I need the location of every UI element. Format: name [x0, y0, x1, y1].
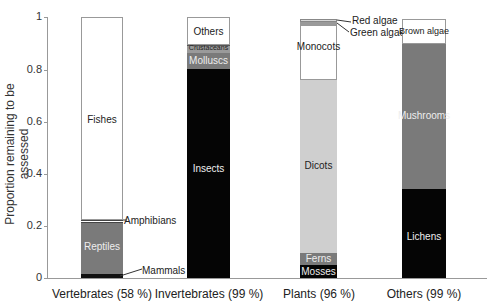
segment-fishes: Fishes — [81, 17, 123, 220]
label-insects: Insects — [177, 163, 240, 174]
bar-invertebrates: Others Crustaceans Molluscs Insects — [187, 17, 230, 278]
label-others: Others — [178, 26, 239, 37]
label-ferns: Ferns — [290, 253, 347, 264]
segment-crustaceans: Crustaceans — [187, 45, 230, 53]
category-invertebrates: Invertebrates (99 %) — [149, 287, 269, 301]
y-tick-mark — [44, 17, 48, 18]
label-fishes: Fishes — [72, 114, 132, 125]
segment-others: Others — [187, 17, 230, 45]
y-tick-mark — [44, 174, 48, 175]
y-tick-0.8: 0.8 — [22, 63, 42, 75]
segment-mosses: Mosses — [300, 265, 337, 278]
leader-lines-plants — [336, 16, 356, 36]
segment-dicots: Dicots — [300, 80, 337, 253]
category-plants: Plants (96 %) — [259, 287, 379, 301]
label-monocots: Monocots — [291, 41, 346, 52]
segment-lichens: Lichens — [402, 189, 446, 278]
y-tick-mark — [44, 226, 48, 227]
bar-others: Brown algae Mushrooms Lichens — [402, 19, 446, 278]
y-axis-line — [47, 17, 48, 279]
segment-mushrooms: Mushrooms — [402, 44, 446, 189]
y-tick-mark — [44, 278, 48, 279]
y-tick-0: 0 — [22, 271, 42, 283]
y-tick-mark — [44, 70, 48, 71]
segment-brown-algae: Brown algae — [402, 19, 446, 44]
y-tick-1: 1 — [22, 10, 42, 22]
category-vertebrates: Vertebrates (58 %) — [42, 287, 162, 301]
label-brown-algae: Brown algae — [393, 26, 455, 36]
leader-lines-vertebrates — [115, 210, 155, 280]
y-tick-0.6: 0.6 — [22, 115, 42, 127]
category-others: Others (99 %) — [364, 287, 484, 301]
y-tick-mark — [44, 122, 48, 123]
annotation-red-algae: Red algae — [352, 15, 398, 26]
segment-insects: Insects — [187, 69, 230, 278]
segment-ferns: Ferns — [300, 253, 337, 265]
label-lichens: Lichens — [392, 231, 456, 242]
label-mushrooms: Mushrooms — [392, 110, 456, 121]
bar-plants: Monocots Dicots Ferns Mosses — [300, 19, 337, 278]
y-tick-0.2: 0.2 — [22, 219, 42, 231]
label-dicots: Dicots — [290, 160, 347, 171]
segment-monocots: Monocots — [300, 25, 337, 80]
y-tick-0.4: 0.4 — [22, 167, 42, 179]
label-molluscs: Molluscs — [177, 55, 240, 66]
segment-molluscs: Molluscs — [187, 53, 230, 69]
label-mosses: Mosses — [290, 266, 347, 277]
label-crustaceans: Crustaceans — [177, 44, 240, 51]
x-axis-line — [47, 278, 487, 279]
